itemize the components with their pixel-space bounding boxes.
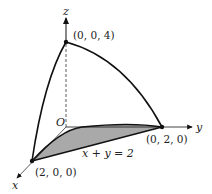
point-y-intercept [160,125,164,129]
surface-edge-yz [66,42,162,127]
z-axis-label: z [62,5,69,18]
line-equation-label: x + y = 2 [82,147,134,160]
origin-label: O [56,116,65,129]
solid-region-diagram: z y x O (0, 0, 4) (0, 2, 0) (2, 0, 0) x … [0,0,212,194]
point-x-intercept [30,159,34,163]
z-intercept-label: (0, 0, 4) [73,29,115,41]
point-z-intercept [64,40,68,44]
x-axis-label: x [12,179,19,192]
y-axis-label: y [195,121,203,134]
x-intercept-label: (2, 0, 0) [35,166,77,178]
y-intercept-label: (0, 2, 0) [146,133,188,145]
